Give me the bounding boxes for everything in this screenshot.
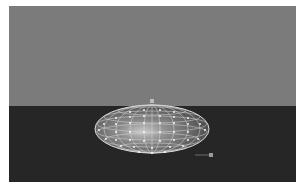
3d-viewport[interactable]: 3D perspective viewport Flattened sphere… — [9, 6, 296, 182]
pivot-handle-icon[interactable] — [150, 99, 154, 103]
scene-canvas[interactable] — [9, 6, 296, 182]
ellipsoid-object[interactable] — [95, 105, 209, 154]
scale-handle-icon[interactable] — [209, 153, 213, 157]
